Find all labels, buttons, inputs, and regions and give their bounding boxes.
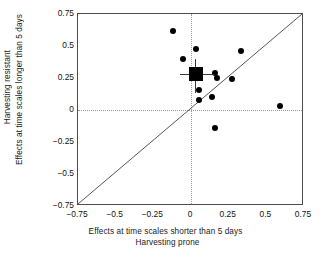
y-tick-label: 0.75 bbox=[46, 8, 74, 18]
data-point bbox=[214, 75, 220, 81]
scatter-plot-figure: Harvesting resistant Effects at time sca… bbox=[0, 0, 331, 262]
x-tick-label: −0.25 bbox=[142, 209, 163, 219]
x-axis-label-line-2: Harvesting prone bbox=[0, 237, 331, 248]
data-point bbox=[170, 28, 176, 34]
x-axis-label: Effects at time scales shorter than 5 da… bbox=[0, 226, 331, 248]
y-tick-label: 0 bbox=[46, 104, 74, 114]
y-tick-label: 0.25 bbox=[46, 72, 74, 82]
x-axis-label-line-1: Effects at time scales shorter than 5 da… bbox=[0, 226, 331, 237]
y-tick-label: −0.25 bbox=[46, 136, 74, 146]
x-tick-label: −0.75 bbox=[66, 209, 87, 219]
plot-area bbox=[77, 13, 303, 205]
x-tick-label: −0.5 bbox=[106, 209, 123, 219]
x-tick-label: 0.75 bbox=[295, 209, 311, 219]
y-tick-label: 0.5 bbox=[46, 40, 74, 50]
mean-marker bbox=[189, 67, 203, 81]
x-axis-ticks: −0.75−0.5−0.2500.250.50.75 bbox=[0, 209, 331, 223]
identity-reference-line bbox=[78, 14, 302, 204]
y-axis-label-line-2: Effects at time scales longer than 5 day… bbox=[15, 14, 24, 165]
x-tick-label: 0.5 bbox=[260, 209, 272, 219]
data-point bbox=[196, 87, 202, 93]
x-tick-label: 0 bbox=[188, 209, 193, 219]
x-tick-label: 0.25 bbox=[220, 209, 236, 219]
data-point bbox=[196, 97, 202, 103]
y-axis-label: Harvesting resistant Effects at time sca… bbox=[0, 0, 46, 215]
data-point bbox=[238, 48, 244, 54]
y-axis-label-line-1: Harvesting resistant bbox=[3, 50, 12, 124]
y-tick-label: −0.5 bbox=[46, 168, 74, 178]
data-point bbox=[229, 76, 235, 82]
data-point bbox=[193, 46, 199, 52]
data-point bbox=[212, 125, 218, 131]
